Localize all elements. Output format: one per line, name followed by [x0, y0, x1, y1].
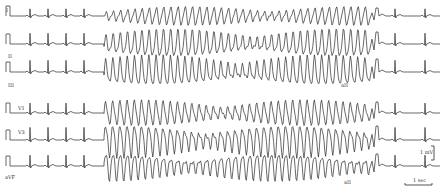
- lead-label-iii: III: [8, 83, 14, 88]
- lead-label-ii: II: [8, 54, 12, 59]
- lead-trace-iii: [6, 55, 440, 84]
- lead-trace-v3: [6, 126, 440, 158]
- lead-trace-ii: [6, 29, 440, 55]
- lead-trace-i: [6, 6, 440, 25]
- time-scale-bar: [405, 183, 432, 185]
- lead-label-v3: V3: [18, 130, 25, 135]
- lead-label-avf: aVF: [5, 175, 15, 180]
- lead-trace-v1: [6, 100, 440, 126]
- lead-label-i: I: [6, 8, 8, 13]
- voltage-scale-label: 1 mV: [420, 150, 433, 155]
- ecg-waveforms: [0, 0, 447, 194]
- annotation-label: aII: [341, 83, 348, 88]
- annotation-label: aII: [344, 180, 351, 185]
- ecg-figure: IIIIIIV1V3aVFaIIaII 1 mV 1 sec: [0, 0, 447, 194]
- lead-trace-avf: [6, 154, 440, 181]
- time-scale-label: 1 sec: [413, 178, 426, 183]
- lead-label-v1: V1: [18, 106, 25, 111]
